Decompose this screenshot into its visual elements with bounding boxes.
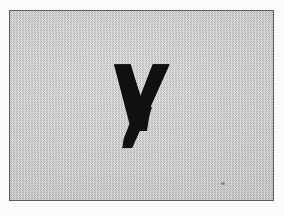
glyph-layer bbox=[10, 11, 273, 200]
glyph-caption: y bbox=[0, 0, 1, 1]
specimen-frame bbox=[9, 10, 274, 201]
dust-speck bbox=[221, 182, 225, 185]
letter-y-glyph bbox=[10, 11, 274, 201]
scanned-page: y bbox=[0, 0, 284, 216]
